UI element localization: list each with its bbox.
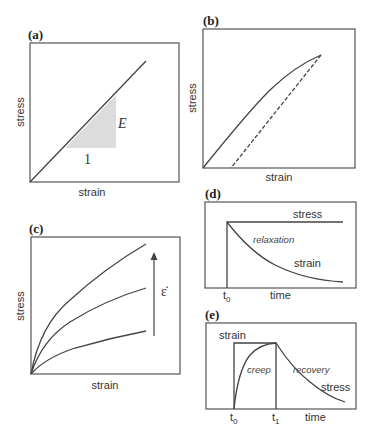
modulus-label: E (117, 116, 127, 131)
stress-label: stress (293, 208, 323, 220)
loading-curve (203, 55, 321, 168)
panel-d-label: (d) (205, 186, 221, 201)
panel-d-xlabel: time (270, 289, 291, 301)
panel-a: (a) E 1 strain stress (14, 27, 179, 198)
panel-d: (d) stress relaxation strain t0 time (205, 186, 356, 304)
slope-triangle (65, 95, 116, 148)
panel-a-label: (a) (28, 27, 43, 42)
creep-curve (234, 343, 276, 409)
stress-label: stress (321, 381, 351, 393)
panel-b-label: (b) (203, 13, 219, 28)
strain-label: strain (294, 257, 321, 269)
panel-b: (b) strain stress (186, 13, 355, 183)
unloading-dashed-line (231, 55, 321, 168)
curve-mid-rate (31, 288, 146, 374)
panel-e: (e) strain creep recovery stress t0 t1 t… (205, 307, 356, 426)
t1-label: t1 (272, 411, 280, 426)
curve-high-rate (31, 244, 146, 374)
run-label: 1 (84, 152, 91, 167)
panel-c-label: (c) (29, 221, 43, 236)
creep-label: creep (247, 364, 271, 375)
panel-b-ylabel: stress (186, 83, 198, 113)
panel-c: (c) ε̇ strain stress (14, 221, 180, 391)
panel-c-ylabel: stress (14, 291, 26, 321)
strain-rate-label: ε̇ (161, 284, 168, 299)
t0-label: t0 (230, 411, 238, 426)
panel-c-frame (31, 237, 180, 374)
panel-e-xlabel: time (305, 411, 326, 423)
stress-step-line (227, 222, 343, 288)
figure-canvas: (a) E 1 strain stress (b) strain stress … (0, 0, 376, 440)
curve-low-rate (31, 331, 146, 374)
relaxation-label: relaxation (253, 234, 294, 245)
panel-b-frame (203, 29, 355, 168)
panel-a-ylabel: stress (14, 97, 26, 127)
panel-e-label: (e) (205, 307, 219, 322)
recovery-label: recovery (293, 364, 331, 375)
strain-label: strain (219, 329, 246, 341)
t0-label: t0 (223, 289, 231, 304)
strain-relaxation-curve (227, 222, 343, 282)
panel-b-xlabel: strain (266, 171, 293, 183)
arrow-up-icon (151, 252, 158, 260)
panel-a-xlabel: strain (79, 186, 106, 198)
panel-c-xlabel: strain (92, 379, 119, 391)
